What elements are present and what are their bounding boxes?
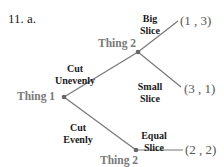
edge-label-line: Slice <box>134 142 174 154</box>
node-thing2-top-label: Thing 2 <box>98 38 136 50</box>
edge-label-cut-evenly: Cut Evenly <box>54 122 102 145</box>
payoff-1-3: (1 , 3) <box>180 14 211 27</box>
node-thing1-dot <box>62 95 67 100</box>
edge-label-line: Evenly <box>54 134 102 146</box>
node-thing2-top-dot <box>136 50 141 55</box>
edge-label-line: Small <box>130 81 170 93</box>
edge-label-equal-slice: Equal Slice <box>134 130 174 153</box>
edge-label-line: Unevenly <box>51 75 99 87</box>
edge-label-big-slice: Big Slice <box>130 13 170 36</box>
node-thing1-label: Thing 1 <box>17 91 55 103</box>
edge-label-line: Cut <box>54 122 102 134</box>
game-tree-diagram: 11. a. Thing 1 Thing 2 Thing 2 Cut Uneve… <box>0 0 224 167</box>
edge-label-line: Equal <box>134 130 174 142</box>
edge-label-line: Slice <box>130 93 170 105</box>
payoff-3-1: (3 , 1) <box>184 82 215 95</box>
edge-label-small-slice: Small Slice <box>130 81 170 104</box>
edge-label-line: Big <box>130 13 170 25</box>
edge-label-cut-unevenly: Cut Unevenly <box>51 63 99 86</box>
edge-label-line: Cut <box>51 63 99 75</box>
payoff-2-2: (2 , 2) <box>185 143 216 156</box>
edge-label-line: Slice <box>130 25 170 37</box>
problem-number: 11. a. <box>8 12 36 25</box>
node-thing2-bottom-label: Thing 2 <box>100 155 138 167</box>
